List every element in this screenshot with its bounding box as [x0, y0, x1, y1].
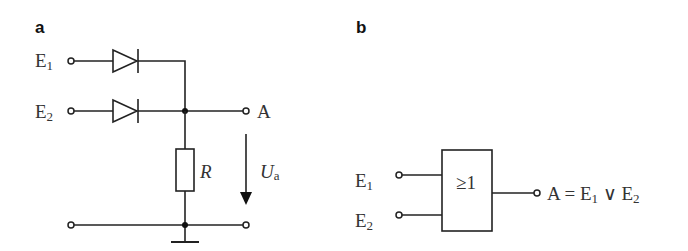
- panel-a: a E1 E2 A R: [35, 18, 280, 242]
- diagram-canvas: a E1 E2 A R: [0, 0, 688, 251]
- gate-input-e2-label: E2: [355, 210, 373, 233]
- gate-input-e1-label: E1: [355, 170, 373, 193]
- diode-2-icon: [113, 99, 138, 123]
- gate-symbol: ≥1: [456, 172, 476, 193]
- gate-input-e2-terminal: [396, 212, 402, 218]
- input-e1-terminal: [68, 58, 74, 64]
- diode-1-icon: [113, 49, 138, 73]
- voltage-label: Ua: [260, 161, 280, 183]
- voltage-arrow-icon: [240, 134, 252, 205]
- input-e2-terminal: [68, 108, 74, 114]
- gate-output-terminal: [534, 190, 540, 196]
- resistor-label: R: [199, 161, 212, 182]
- panel-a-label: a: [35, 18, 45, 37]
- ground-terminal-left: [68, 222, 74, 228]
- output-a-terminal: [243, 108, 249, 114]
- ground-terminal-right: [243, 222, 249, 228]
- panel-b-label: b: [356, 18, 366, 37]
- gate-input-e1-terminal: [396, 172, 402, 178]
- output-a-label: A: [257, 101, 271, 122]
- wire: [138, 61, 185, 111]
- panel-b: b E1 E2 ≥1 A = E1 ∨ E2: [355, 18, 640, 233]
- input-e2-label: E2: [35, 101, 53, 124]
- input-e1-label: E1: [35, 50, 53, 73]
- resistor-icon: [176, 149, 194, 191]
- junction-dot: [182, 222, 188, 228]
- gate-output-expression: A = E1 ∨ E2: [547, 183, 640, 206]
